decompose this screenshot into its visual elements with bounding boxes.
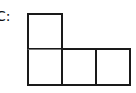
square-top-left: [27, 13, 63, 50]
square-bottom-middle: [61, 48, 97, 86]
square-bottom-left: [27, 49, 63, 86]
figure-label: C:: [0, 9, 11, 23]
square-bottom-right: [95, 48, 131, 86]
